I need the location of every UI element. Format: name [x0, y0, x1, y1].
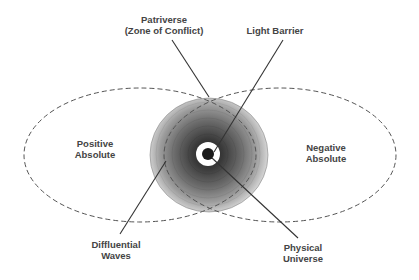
patriverse-label: Patriverse (Zone of Conflict) [125, 14, 204, 36]
diagram-graphics [0, 0, 419, 280]
negative-absolute-label: Negative Absolute [306, 142, 347, 164]
physical-universe-label: Physical Universe [283, 242, 323, 264]
patriverse-leader [172, 40, 209, 97]
diffluential-waves-label: Diffluential Waves [91, 239, 140, 261]
diagram-canvas: Patriverse (Zone of Conflict) Light Barr… [0, 0, 419, 280]
positive-absolute-label: Positive Absolute [75, 138, 116, 160]
diffluential-leader [120, 161, 166, 234]
light-barrier-label: Light Barrier [246, 25, 303, 36]
